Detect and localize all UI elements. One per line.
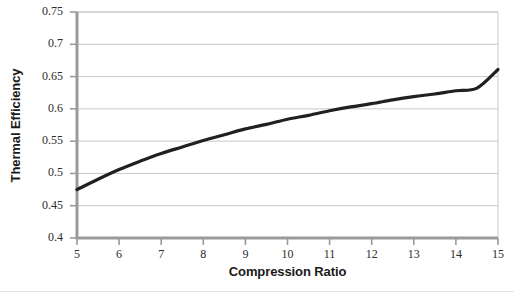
x-tick-label-8: 8 [189,247,217,262]
x-tick-label-9: 9 [231,247,259,262]
y-tick-label-0.45: 0.45 [29,198,63,213]
x-tick-label-12: 12 [358,247,386,262]
y-tick-label-0.75: 0.75 [29,4,63,19]
chart-figure: 0.40.450.50.550.60.650.70.75 56789101112… [0,0,514,298]
x-tick-label-13: 13 [400,247,428,262]
y-tick-label-0.4: 0.4 [29,230,63,245]
y-tick-label-0.65: 0.65 [29,69,63,84]
x-tick-label-6: 6 [105,247,133,262]
bottom-divider [0,291,514,292]
x-tick-label-10: 10 [274,247,302,262]
x-tick-label-7: 7 [147,247,175,262]
y-tick-label-0.7: 0.7 [29,36,63,51]
y-tick-label-0.55: 0.55 [29,133,63,148]
x-axis-title-text: Compression Ratio [229,264,346,279]
y-axis-title-text: Thermal Efficiency [9,68,24,182]
x-axis-title: Compression Ratio [77,262,498,280]
x-tick-label-11: 11 [316,247,344,262]
y-tick-label-0.6: 0.6 [29,101,63,116]
x-tick-label-14: 14 [442,247,470,262]
x-tick-label-5: 5 [63,247,91,262]
y-tick-label-0.5: 0.5 [29,165,63,180]
x-tick-label-15: 15 [484,247,512,262]
y-axis-title: Thermal Efficiency [2,0,30,250]
